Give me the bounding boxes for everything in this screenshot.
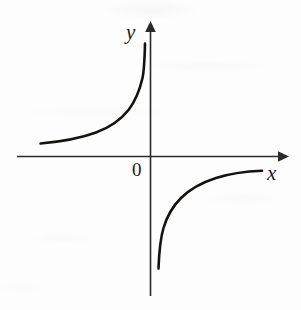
hyperbola-figure: y x 0 <box>0 0 301 310</box>
coordinate-plot: y x 0 <box>0 0 301 310</box>
x-axis-arrow-icon <box>278 151 289 162</box>
x-axis-label: x <box>266 161 277 185</box>
y-axis-arrow-icon <box>145 21 156 32</box>
y-axis-label: y <box>124 20 136 44</box>
hyperbola-branch-quadrant-2 <box>41 44 146 144</box>
hyperbola-branch-quadrant-4 <box>159 171 263 269</box>
origin-label: 0 <box>132 159 142 180</box>
